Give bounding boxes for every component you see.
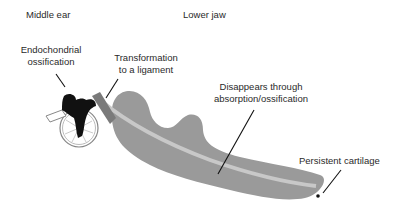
label-disappears-absorption: Disappears through absorption/ossificati… [206,81,316,105]
label-transformation-ligament: Transformation to a ligament [108,52,184,76]
ossicles-icon [62,94,96,138]
label-endochondral-ossification: Endochondrial ossification [16,44,86,68]
label-persistent-cartilage: Persistent cartilage [299,155,380,167]
header-middle-ear: Middle ear [26,9,70,21]
persistent-cartilage-tip [316,194,320,198]
header-lower-jaw: Lower jaw [183,9,226,21]
stapes-icon [46,110,66,122]
diagram-canvas [0,0,409,221]
